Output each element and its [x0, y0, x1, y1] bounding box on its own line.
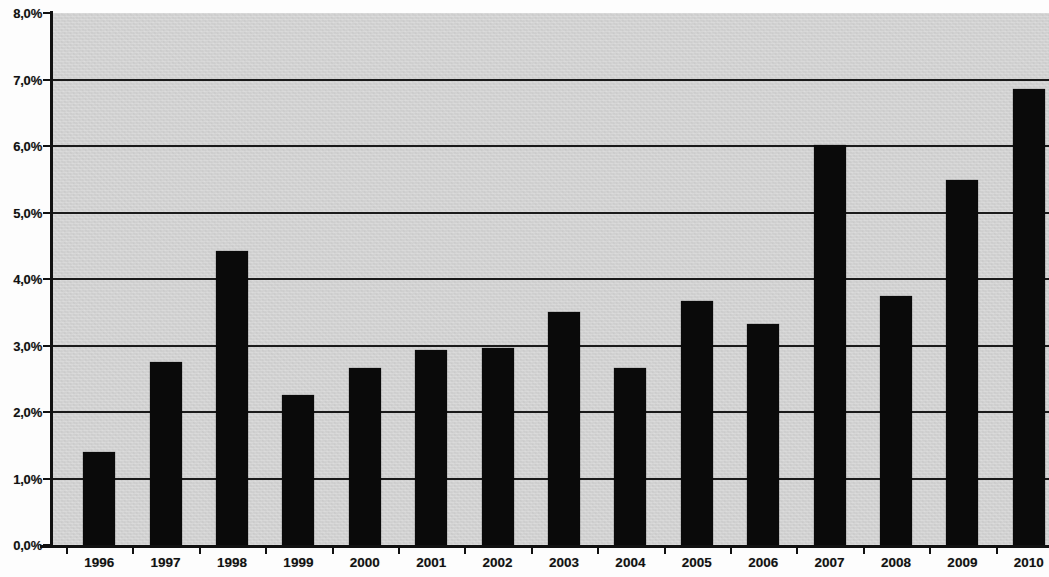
bar	[747, 324, 779, 545]
x-axis-tick-label: 2003	[549, 555, 579, 570]
y-axis-tick-label: 3,0%	[13, 338, 42, 353]
bar	[1013, 89, 1045, 545]
bar	[216, 251, 248, 545]
bar	[614, 368, 646, 545]
x-axis-tick-label: 2010	[1014, 555, 1044, 570]
x-axis-tick-label: 2004	[615, 555, 645, 570]
x-axis-tick-label: 2008	[881, 555, 911, 570]
x-axis-tick-label: 2001	[416, 555, 446, 570]
y-axis-labels: 0,0%1,0%2,0%3,0%4,0%5,0%6,0%7,0%8,0%	[0, 0, 46, 577]
bar	[349, 368, 381, 545]
x-axis-line	[40, 545, 1049, 548]
x-axis-tick-label: 2005	[682, 555, 712, 570]
y-axis-tick-label: 1,0%	[13, 471, 42, 486]
y-axis-tick-label: 2,0%	[13, 405, 42, 420]
plot-area	[53, 13, 1049, 545]
x-axis-tick-label: 1996	[84, 555, 114, 570]
x-axis-tick-label: 1997	[151, 555, 181, 570]
y-axis-tick-label: 6,0%	[13, 139, 42, 154]
gridline	[53, 212, 1049, 214]
bar	[681, 301, 713, 545]
x-axis-tick-label: 2009	[947, 555, 977, 570]
y-axis-tick-label: 0,0%	[13, 538, 42, 553]
bar	[150, 362, 182, 545]
bar	[415, 350, 447, 545]
y-axis-tick-label: 7,0%	[13, 72, 42, 87]
x-axis-tick-label: 2000	[350, 555, 380, 570]
gridline	[53, 145, 1049, 147]
x-axis-tick-label: 2002	[483, 555, 513, 570]
y-axis-tick-label: 4,0%	[13, 272, 42, 287]
bar	[946, 180, 978, 545]
gridline	[53, 278, 1049, 280]
bar	[880, 296, 912, 545]
x-axis-tick-label: 2006	[748, 555, 778, 570]
y-axis-tick-label: 5,0%	[13, 205, 42, 220]
x-axis-tick-label: 2007	[815, 555, 845, 570]
bar	[83, 452, 115, 545]
x-axis-labels: 1996199719981999200020012002200320042005…	[0, 553, 1049, 577]
bar-chart-figure: 0,0%1,0%2,0%3,0%4,0%5,0%6,0%7,0%8,0% 199…	[0, 0, 1049, 577]
x-axis-tick-label: 1998	[217, 555, 247, 570]
bar	[814, 145, 846, 545]
bar	[282, 395, 314, 545]
y-axis-tick-label: 8,0%	[13, 6, 42, 21]
bar	[548, 312, 580, 545]
gridline	[53, 79, 1049, 81]
x-axis-tick-label: 1999	[283, 555, 313, 570]
bar	[482, 348, 514, 545]
